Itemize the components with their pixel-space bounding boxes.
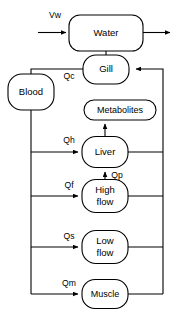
node-gill-label: Gill — [99, 63, 113, 74]
node-blood[interactable]: Blood — [8, 74, 54, 110]
node-high-flow-label-line1: High — [95, 184, 115, 195]
node-gill[interactable]: Gill — [83, 55, 129, 84]
node-muscle[interactable]: Muscle — [82, 280, 128, 309]
node-metabolites[interactable]: Metabolites — [84, 100, 156, 120]
flow-diagram-canvas: Water Gill Blood Metabolites Liver High … — [0, 0, 179, 326]
node-water[interactable]: Water — [69, 15, 143, 51]
flow-label-qh: Qh — [63, 135, 75, 145]
pbpk-flow-diagram: Water Gill Blood Metabolites Liver High … — [0, 0, 179, 326]
node-low-flow-label-line2: flow — [97, 247, 114, 258]
node-low-flow[interactable]: Low flow — [82, 231, 128, 264]
node-high-flow[interactable]: High flow — [82, 180, 128, 213]
node-metabolites-label: Metabolites — [97, 105, 144, 115]
node-liver[interactable]: Liver — [82, 137, 128, 168]
flow-label-qs: Qs — [64, 231, 75, 241]
flow-label-qp: Qp — [111, 170, 123, 180]
node-muscle-label: Muscle — [91, 289, 120, 299]
node-low-flow-label-line1: Low — [96, 235, 114, 246]
node-high-flow-label-line2: flow — [97, 196, 114, 207]
node-water-label: Water — [94, 27, 119, 38]
flow-label-qm: Qm — [62, 278, 76, 288]
node-blood-label: Blood — [19, 86, 43, 97]
flow-label-vw: Vw — [49, 10, 62, 20]
flow-label-qc: Qc — [64, 71, 76, 81]
node-liver-label: Liver — [95, 146, 116, 157]
flow-label-qf: Qf — [64, 180, 74, 190]
